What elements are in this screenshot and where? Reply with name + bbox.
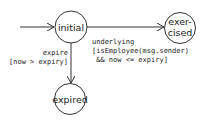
state-initial: initial — [55, 11, 87, 43]
state-initial-label: initial — [58, 22, 84, 33]
transition-expired-label-line2: [now > expiry] — [9, 58, 68, 66]
transition-exercised-label-line2: [isEmployee(msg.sender) — [92, 47, 189, 55]
state-expired: expired — [52, 84, 88, 115]
state-exercised-label-line2: cised — [168, 27, 193, 38]
transition-exercised-label-line1: underlying — [92, 38, 134, 46]
state-expired-label: expired — [52, 94, 88, 105]
state-exercised: exer- cised — [165, 13, 196, 44]
state-exercised-label-line1: exer- — [168, 16, 192, 27]
transition-exercised-label-line3: && now <= expiry] — [92, 56, 168, 64]
state-diagram: initial exer- cised expired expire [now … — [0, 0, 211, 126]
transition-expired-label-line1: expire — [43, 49, 68, 57]
